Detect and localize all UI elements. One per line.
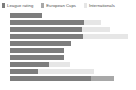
bar-row xyxy=(10,62,70,67)
legend-item-internationals[interactable]: Internationals xyxy=(84,0,115,11)
bar-segment xyxy=(83,34,128,39)
legend-item-european-cups[interactable]: European Cups xyxy=(41,0,76,11)
bar-row xyxy=(10,13,42,18)
bar-segment xyxy=(84,20,101,25)
legend-item-label: League rating xyxy=(7,3,33,8)
bar-segment xyxy=(10,41,71,46)
bar-segment xyxy=(10,20,84,25)
bar-segment xyxy=(10,76,91,81)
bar-row xyxy=(10,20,101,25)
bar-segment xyxy=(10,34,83,39)
bar-segment xyxy=(10,69,38,74)
bar-segment xyxy=(10,48,64,53)
bar-segment xyxy=(10,62,49,67)
bar-segment xyxy=(91,76,114,81)
bar-row xyxy=(10,27,110,32)
bar-segment xyxy=(38,69,94,74)
bar-row xyxy=(10,76,114,81)
square-swatch-icon xyxy=(41,3,44,8)
legend-item-label: European Cups xyxy=(46,3,76,8)
bar-row xyxy=(10,48,64,53)
bar-row xyxy=(10,69,94,74)
bar-segment xyxy=(10,55,64,60)
bar-segment xyxy=(49,62,70,67)
square-swatch-icon xyxy=(2,3,5,8)
stacked-bar-chart: League rating European Cups Internationa… xyxy=(0,0,136,90)
bar-row xyxy=(10,55,64,60)
legend-item-label: Internationals xyxy=(89,3,115,8)
chart-legend: League rating European Cups Internationa… xyxy=(0,0,136,11)
bar-segment xyxy=(10,27,82,32)
plot-area xyxy=(0,13,136,87)
legend-item-league-rating[interactable]: League rating xyxy=(2,0,33,11)
bar-segment xyxy=(82,27,110,32)
bar-row xyxy=(10,41,71,46)
bar-segment xyxy=(10,13,42,18)
square-swatch-icon xyxy=(84,3,87,8)
bar-row xyxy=(10,34,128,39)
